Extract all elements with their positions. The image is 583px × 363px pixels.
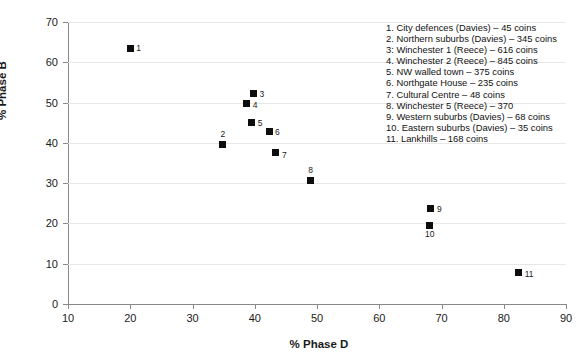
data-point-label: 5	[258, 119, 263, 128]
x-axis-tick-label: 10	[48, 313, 88, 324]
y-axis-tick	[63, 22, 68, 23]
x-axis-tick-label: 40	[235, 313, 275, 324]
y-axis-tick	[63, 223, 68, 224]
x-axis-tick	[504, 304, 505, 309]
data-point-label: 1	[136, 44, 141, 53]
data-point-marker[interactable]	[427, 205, 434, 212]
data-point-marker[interactable]	[515, 269, 522, 276]
scatter-chart: 0102030405060701020304050607080901234567…	[0, 0, 583, 363]
data-point-label: 7	[282, 151, 287, 160]
legend-item: 5. NW walled town – 375 coins	[386, 66, 581, 77]
legend-item: 2. Northern suburbs (Davies) – 345 coins	[386, 33, 581, 44]
y-axis-tick-label: 30	[18, 178, 58, 189]
data-point-marker[interactable]	[219, 141, 226, 148]
data-point-marker[interactable]	[127, 45, 134, 52]
y-axis-tick	[63, 264, 68, 265]
data-point-label: 6	[275, 128, 280, 137]
data-point-label: 9	[437, 205, 442, 214]
x-axis-tick-label: 30	[173, 313, 213, 324]
x-axis-tick	[566, 304, 567, 309]
data-point-marker[interactable]	[250, 90, 257, 97]
data-point-marker[interactable]	[248, 119, 255, 126]
legend-item: 4. Winchester 2 (Reece) – 845 coins	[386, 55, 581, 66]
data-point-marker[interactable]	[307, 177, 314, 184]
gridline-horizontal	[68, 183, 566, 184]
legend: 1. City defences (Davies) – 45 coins2. N…	[386, 22, 581, 144]
y-axis-tick-label: 10	[18, 259, 58, 270]
data-point-label: 8	[308, 166, 313, 175]
x-axis-title: % Phase D	[0, 338, 583, 350]
x-axis-tick	[379, 304, 380, 309]
y-axis-tick-label: 50	[18, 98, 58, 109]
y-axis-tick-label: 20	[18, 218, 58, 229]
x-axis-tick	[68, 304, 69, 309]
y-axis-tick	[63, 103, 68, 104]
data-point-label: 3	[260, 90, 265, 99]
y-axis-title: % Phase B	[0, 61, 8, 120]
data-point-marker[interactable]	[272, 149, 279, 156]
data-point-label: 10	[425, 230, 434, 239]
data-point-marker[interactable]	[243, 100, 250, 107]
x-axis-tick-label: 20	[110, 313, 150, 324]
data-point-label: 4	[253, 101, 258, 110]
x-axis-tick-label: 50	[297, 313, 337, 324]
data-point-marker[interactable]	[266, 128, 273, 135]
x-axis-tick-label: 80	[484, 313, 524, 324]
x-axis-tick	[317, 304, 318, 309]
x-axis-tick	[193, 304, 194, 309]
legend-item: 9. Western suburbs (Davies) – 68 coins	[386, 111, 581, 122]
y-axis-tick-label: 0	[18, 299, 58, 310]
data-point-label: 11	[525, 270, 534, 279]
y-axis-tick	[63, 62, 68, 63]
x-axis-tick	[442, 304, 443, 309]
y-axis-tick-label: 60	[18, 57, 58, 68]
legend-item: 11. Lankhills – 168 coins	[386, 133, 581, 144]
legend-item: 6. Northgate House – 235 coins	[386, 77, 581, 88]
x-axis-tick-label: 60	[359, 313, 399, 324]
data-point-marker[interactable]	[426, 222, 433, 229]
y-axis-tick-label: 70	[18, 17, 58, 28]
y-axis-tick	[63, 183, 68, 184]
x-axis-tick	[255, 304, 256, 309]
legend-item: 8. Winchester 5 (Reece) – 370	[386, 100, 581, 111]
x-axis-tick	[130, 304, 131, 309]
legend-item: 3: Winchester 1 (Reece) – 616 coins	[386, 44, 581, 55]
legend-item: 10. Eastern suburbs (Davies) – 35 coins	[386, 122, 581, 133]
x-axis-tick-label: 90	[546, 313, 583, 324]
y-axis-tick-label: 40	[18, 138, 58, 149]
data-point-label: 2	[220, 130, 225, 139]
gridline-horizontal	[68, 223, 566, 224]
legend-item: 7. Cultural Centre – 48 coins	[386, 89, 581, 100]
y-axis-tick	[63, 143, 68, 144]
gridline-horizontal	[68, 264, 566, 265]
x-axis-tick-label: 70	[422, 313, 462, 324]
legend-item: 1. City defences (Davies) – 45 coins	[386, 22, 581, 33]
